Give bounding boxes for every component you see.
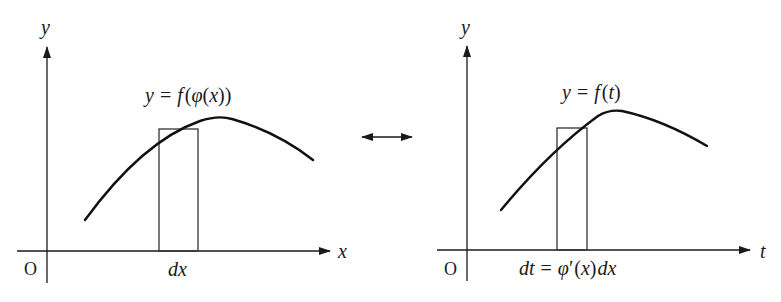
right-dt-label: dt=φ′(x)dx — [519, 257, 617, 280]
right-origin-label: O — [444, 259, 457, 279]
right-graph: y t O y=f(t) dt=φ′(x)dx — [437, 16, 766, 281]
right-curve — [501, 111, 707, 210]
substitution-diagram: y x O y=f(φ(x)) dx y t O y=f(t) dt=φ′(x)… — [0, 0, 781, 302]
right-curve-label: y=f(t) — [560, 81, 621, 104]
left-curve-label: y=f(φ(x)) — [143, 84, 231, 107]
left-graph: y x O y=f(φ(x)) dx — [17, 16, 347, 283]
left-dx-strip — [159, 129, 198, 251]
left-y-axis-label: y — [39, 16, 50, 39]
left-x-axis-label: x — [337, 240, 347, 262]
left-curve — [85, 117, 313, 220]
left-dx-label: dx — [168, 258, 187, 280]
left-origin-label: O — [24, 259, 37, 279]
right-t-axis-label: t — [760, 240, 766, 262]
right-y-axis-label: y — [459, 16, 470, 39]
